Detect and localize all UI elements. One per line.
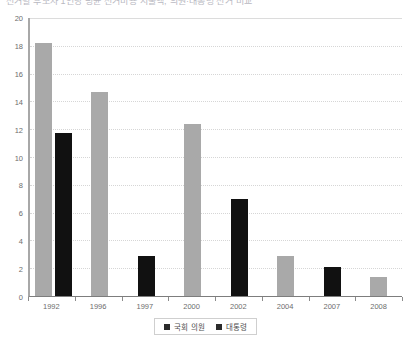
x-tick-mark-1992 — [28, 297, 29, 301]
x-tick-mark-end — [402, 297, 403, 301]
y-tick-label-20: 20 — [15, 14, 23, 23]
x-tick-label-2008: 2008 — [370, 302, 387, 311]
y-tick-label-14: 14 — [15, 97, 23, 106]
bar-assembly-1992 — [35, 43, 52, 296]
bar-president-2002 — [231, 199, 248, 296]
x-tick-label-2004: 2004 — [277, 302, 294, 311]
bar-president-2007 — [324, 267, 341, 296]
x-tick-mark-2000 — [168, 297, 169, 301]
y-tick-label-18: 18 — [15, 41, 23, 50]
y-tick-label-2: 2 — [19, 265, 23, 274]
x-tick-label-1996: 1996 — [90, 302, 107, 311]
caption-strip: 선거별 후보자 1인당 평균 선거비용 지출액, 의원·대통령 선거 비교 — [0, 0, 411, 8]
bars-layer — [30, 18, 402, 296]
y-tick-label-4: 4 — [19, 237, 23, 246]
x-tick-label-1997: 1997 — [137, 302, 154, 311]
x-tick-mark-2004 — [262, 297, 263, 301]
y-tick-label-6: 6 — [19, 209, 23, 218]
legend-entry-2[interactable]: 대통령 — [216, 321, 247, 332]
y-tick-label-16: 16 — [15, 69, 23, 78]
x-tick-mark-2002 — [215, 297, 216, 301]
bar-president-1997 — [138, 256, 155, 296]
plot-wrapper: 02468101214161820 1992199619972000200220… — [0, 8, 411, 313]
x-axis: 19921996199720002002200420072008 — [28, 297, 402, 313]
plot-area — [28, 18, 402, 297]
legend-label-1: 국회 의원 — [174, 321, 204, 332]
legend-swatch-assembly — [164, 324, 170, 330]
bar-assembly-2004 — [277, 256, 294, 296]
caption-text: 선거별 후보자 1인당 평균 선거비용 지출액, 의원·대통령 선거 비교 — [6, 0, 252, 7]
legend-swatch-president — [216, 324, 222, 330]
x-tick-label-1992: 1992 — [43, 302, 60, 311]
y-tick-label-8: 8 — [19, 181, 23, 190]
y-tick-label-0: 0 — [19, 293, 23, 302]
x-tick-mark-1996 — [75, 297, 76, 301]
bar-assembly-1996 — [91, 92, 108, 296]
x-tick-mark-2008 — [355, 297, 356, 301]
legend-label-2: 대통령 — [226, 321, 247, 332]
x-tick-mark-2007 — [309, 297, 310, 301]
x-tick-label-2007: 2007 — [324, 302, 341, 311]
bar-president-1992 — [55, 133, 72, 296]
bar-assembly-2008 — [370, 277, 387, 296]
y-tick-label-10: 10 — [15, 153, 23, 162]
legend-entry-1[interactable]: 국회 의원 — [164, 321, 204, 332]
y-axis: 02468101214161820 — [0, 18, 28, 297]
y-tick-label-12: 12 — [15, 125, 23, 134]
legend-box: 국회 의원대통령 — [154, 318, 256, 335]
x-tick-mark-1997 — [122, 297, 123, 301]
x-tick-label-2000: 2000 — [183, 302, 200, 311]
x-tick-label-2002: 2002 — [230, 302, 247, 311]
chart-legend: 국회 의원대통령 — [0, 318, 411, 335]
bar-assembly-2000 — [184, 124, 201, 296]
bar-chart: 선거별 후보자 1인당 평균 선거비용 지출액, 의원·대통령 선거 비교 02… — [0, 0, 411, 348]
